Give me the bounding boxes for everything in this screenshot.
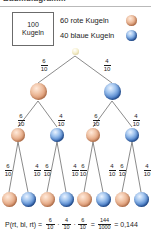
tree-node-l3-4: [77, 192, 92, 207]
edge-label-l1-0: 6 10: [37, 58, 51, 73]
numerator: 6: [40, 163, 54, 169]
denominator: 1000: [98, 225, 110, 231]
denominator: 10: [40, 171, 54, 177]
numerator: 6: [76, 163, 90, 169]
tree-node-l3-0: [2, 192, 17, 207]
denominator: 10: [140, 171, 151, 177]
denominator: 10: [1, 171, 15, 177]
edge-label-l2-3: 4 10: [129, 113, 143, 128]
denominator: 10: [129, 121, 143, 127]
formula-equals-2: =: [114, 221, 118, 228]
denominator: 10: [76, 171, 90, 177]
numerator: 6: [81, 218, 84, 224]
tree-node-l3-1: [21, 192, 36, 207]
formula-lhs: P(rt, bl, rt) =: [5, 221, 42, 228]
baumdiagramm-figure: Baumdiagramm 100 Kugeln 60 rote Kugeln 4…: [0, 0, 151, 236]
tree-node-l2-0: [11, 128, 25, 142]
formula-equals-1: =: [91, 221, 95, 228]
numerator: 4: [129, 113, 143, 119]
denominator: 10: [54, 121, 68, 127]
probability-formula: P(rt, bl, rt) = 6 10 · 4 10 · 6 10 = 144…: [5, 216, 150, 232]
denominator: 10: [14, 121, 28, 127]
formula-factor-3: 6 10: [78, 218, 87, 231]
denominator: 10: [80, 225, 86, 231]
numerator: 6: [37, 58, 51, 64]
numerator: 4: [100, 58, 114, 64]
tree-node-l3-2: [40, 192, 55, 207]
tree-node-l3-7: [134, 192, 149, 207]
denominator: 10: [89, 121, 103, 127]
edge-label-l2-0: 6 10: [14, 113, 28, 128]
formula-dot-1: ·: [57, 221, 59, 228]
numerator: 6: [49, 218, 52, 224]
numerator: 4: [65, 218, 68, 224]
numerator: 6: [89, 113, 103, 119]
formula-factor-2: 4 10: [62, 218, 71, 231]
denominator: 10: [47, 225, 53, 231]
numerator: 6: [115, 163, 129, 169]
tree-node-l3-5: [96, 192, 111, 207]
edge-label-l3-7: 4 10: [140, 163, 151, 178]
numerator: 144: [100, 218, 109, 224]
urn-node-icon: [72, 48, 79, 55]
denominator: 10: [37, 66, 51, 72]
numerator: 4: [140, 163, 151, 169]
denominator: 10: [115, 171, 129, 177]
numerator: 6: [14, 113, 28, 119]
edge-label-l3-4: 6 10: [76, 163, 90, 178]
tree-node-l1-blue: [104, 83, 121, 100]
tree-node-l2-3: [125, 128, 139, 142]
tree-node-l2-1: [50, 128, 64, 142]
formula-dot-2: ·: [74, 221, 76, 228]
tree-node-l1-red: [30, 83, 47, 100]
tree-node-l3-3: [59, 192, 74, 207]
tree-node-l2-2: [86, 128, 100, 142]
numerator: 4: [54, 113, 68, 119]
denominator: 10: [100, 66, 114, 72]
edge-label-l3-6: 6 10: [115, 163, 129, 178]
formula-result-fraction: 144 1000: [98, 218, 110, 231]
edge-label-l2-1: 4 10: [54, 113, 68, 128]
formula-decimal-result: 0,144: [120, 221, 138, 228]
edge-label-l3-0: 6 10: [1, 163, 15, 178]
edge-label-l3-2: 6 10: [40, 163, 54, 178]
denominator: 10: [63, 225, 69, 231]
tree-node-l3-6: [115, 192, 130, 207]
edge-label-l1-1: 4 10: [100, 58, 114, 73]
edge-label-l2-2: 6 10: [89, 113, 103, 128]
formula-factor-1: 6 10: [46, 218, 55, 231]
numerator: 6: [1, 163, 15, 169]
